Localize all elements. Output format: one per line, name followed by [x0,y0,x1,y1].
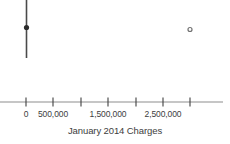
data-point-open-outlier [188,28,192,32]
x-tick-label-2500000: 2,500,000 [145,109,182,119]
data-point-filled [24,25,29,30]
x-tick-label-500000: 500,000 [38,109,68,119]
x-tick-label-0: 0 [24,109,29,119]
x-tick-label-1500000: 1,500,000 [90,109,127,119]
chart-container: 0 500,000 1,500,000 2,500,000 January 20… [0,0,230,144]
x-axis-title: January 2014 Charges [0,125,230,136]
plot-area [0,0,230,144]
